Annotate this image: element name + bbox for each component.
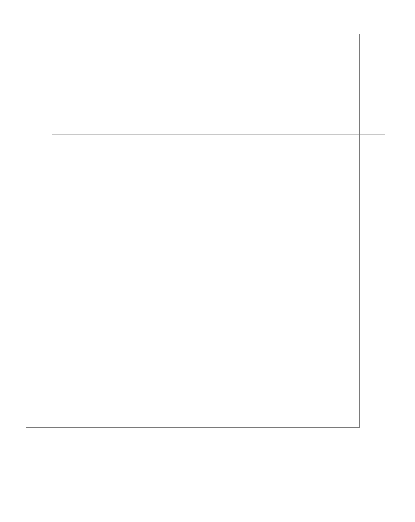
chart-figure xyxy=(0,0,415,522)
bar-rows xyxy=(26,34,359,426)
category-axis-line xyxy=(26,427,359,428)
plot-area xyxy=(26,34,359,426)
value-axis-line xyxy=(359,34,360,428)
category-axis-labels xyxy=(26,428,359,522)
chart-stage xyxy=(0,0,415,522)
